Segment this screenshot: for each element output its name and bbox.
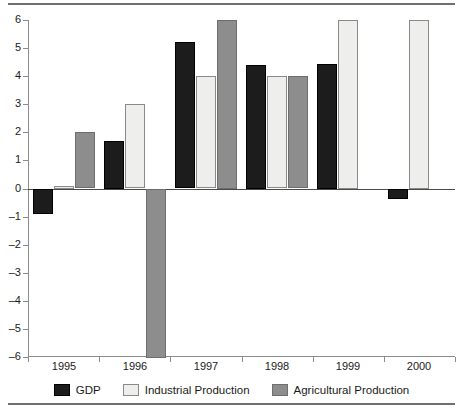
top-divider-rule [8,3,455,5]
bar-industrial-1996 [125,104,145,188]
x-tick-mark [313,357,314,362]
bar-gdp-1997 [175,42,195,188]
legend-swatch-industrial-icon [123,384,139,396]
bar-industrial-1999 [338,20,358,189]
bar-industrial-1997 [196,76,216,188]
y-tick-mark [23,104,28,105]
legend-label: GDP [76,384,101,396]
x-tick-mark [384,357,385,362]
bar-industrial-2000 [409,20,429,189]
x-tick-label: 1998 [265,360,289,373]
y-tick-label: 2 [1,126,21,137]
legend-label: Industrial Production [145,384,250,396]
y-tick-mark [23,245,28,246]
y-tick-mark [23,273,28,274]
legend-item-agricultural[interactable]: Agricultural Production [272,384,410,396]
chart-legend: GDPIndustrial ProductionAgricultural Pro… [0,384,463,396]
bar-gdp-1998 [246,65,266,189]
x-tick-label: 1996 [123,360,147,373]
y-tick-label: 6 [1,14,21,25]
x-tick-label: 1997 [194,360,218,373]
bar-gdp-1996 [104,141,124,189]
y-tick-mark [23,20,28,21]
y-tick-mark [23,217,28,218]
y-tick-mark [23,329,28,330]
y-tick-mark [23,301,28,302]
y-tick-label: –4 [1,295,21,306]
y-tick-label: 3 [1,98,21,109]
x-tick-label: 2000 [407,360,431,373]
bar-gdp-2000 [388,189,408,199]
chart-figure: 6543210–1–2–3–4–5–6 19951996199719981999… [0,0,463,411]
y-tick-label: –5 [1,323,21,334]
x-tick-mark [455,357,456,362]
bar-industrial-1998 [267,76,287,188]
y-tick-label: –6 [1,351,21,362]
legend-swatch-agricultural-icon [272,384,288,396]
x-tick-label: 1999 [336,360,360,373]
bar-gdp-1999 [317,64,337,189]
bar-agricultural-1998 [288,76,308,188]
bar-agricultural-1996 [146,189,166,358]
y-tick-label: 0 [1,183,21,194]
y-tick-mark [23,189,28,190]
x-tick-mark [99,357,100,362]
x-tick-mark [28,357,29,362]
y-tick-label: 5 [1,42,21,53]
y-tick-label: –2 [1,239,21,250]
y-tick-label: –1 [1,211,21,222]
y-tick-label: 4 [1,70,21,81]
bar-gdp-1995 [33,189,53,214]
x-tick-mark [170,357,171,362]
bar-industrial-1995 [54,186,74,189]
bottom-divider-rule [8,403,455,405]
y-tick-label: –3 [1,267,21,278]
x-tick-label: 1995 [52,360,76,373]
legend-item-industrial[interactable]: Industrial Production [123,384,250,396]
y-tick-mark [23,132,28,133]
y-tick-mark [23,160,28,161]
y-tick-mark [23,76,28,77]
legend-swatch-gdp-icon [54,384,70,396]
legend-label: Agricultural Production [294,384,410,396]
bar-agricultural-1995 [75,132,95,188]
y-tick-mark [23,48,28,49]
bar-agricultural-1997 [217,20,237,189]
plot-area: 6543210–1–2–3–4–5–6 19951996199719981999… [28,20,455,357]
legend-item-gdp[interactable]: GDP [54,384,101,396]
y-tick-label: 1 [1,154,21,165]
x-tick-mark [242,357,243,362]
